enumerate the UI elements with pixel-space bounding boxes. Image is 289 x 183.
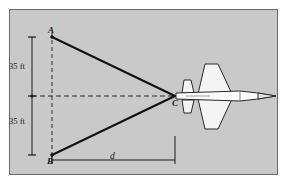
aircraft-nose-cone: [258, 93, 276, 99]
aircraft-lower-wing: [198, 99, 232, 129]
label-dimension-lower: 35 ft: [9, 117, 25, 126]
jet-aircraft-icon: [176, 64, 276, 129]
figure-stage: A B C 35 ft 35 ft d: [0, 0, 289, 183]
label-distance-d: d: [110, 152, 115, 162]
label-point-c: C: [172, 99, 178, 108]
vertex-a-dot: [50, 35, 54, 39]
label-point-a: A: [48, 26, 54, 35]
label-point-b: B: [47, 157, 53, 166]
label-dimension-upper: 35 ft: [9, 62, 25, 71]
aircraft-upper-wing: [198, 64, 232, 94]
diagram-svg: [0, 0, 289, 183]
sight-line-a-to-c: [52, 37, 175, 96]
dimension-midpoint-dot: [30, 94, 33, 97]
aircraft-lower-tailfin: [182, 100, 194, 113]
aircraft-upper-tailfin: [182, 80, 194, 93]
sight-line-b-to-c: [52, 96, 175, 155]
